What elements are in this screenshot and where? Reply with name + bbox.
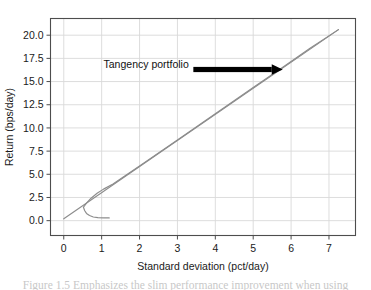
- annotation-arrow-shaft-tangency-portfolio: [193, 67, 271, 72]
- x-tick-label-2: 2: [137, 242, 143, 254]
- y-tick-label-5: 12.5: [23, 98, 44, 110]
- annotation-label-tangency-portfolio: Tangency portfolio: [104, 58, 189, 70]
- y-tick-label-3: 7.5: [29, 145, 44, 157]
- y-tick-label-0: 0.0: [29, 214, 44, 226]
- x-tick-label-3: 3: [175, 242, 181, 254]
- y-tick-label-2: 5.0: [29, 168, 44, 180]
- y-tick-label-8: 20.0: [23, 29, 44, 41]
- x-tick-label-5: 5: [250, 242, 256, 254]
- plot-background: [51, 19, 356, 236]
- x-axis-label: Standard deviation (pct/day): [137, 260, 268, 272]
- figure-container: 01234567 0.02.55.07.510.012.515.017.520.…: [0, 0, 371, 290]
- x-tick-label-1: 1: [99, 242, 105, 254]
- y-tick-label-6: 15.0: [23, 75, 44, 87]
- figure-caption-text: Figure 1.5 Emphasizes the slim performan…: [0, 279, 371, 290]
- figure-caption: Figure 1.5 Emphasizes the slim performan…: [0, 279, 371, 290]
- x-tick-label-6: 6: [288, 242, 294, 254]
- y-tick-label-7: 17.5: [23, 52, 44, 64]
- y-tick-label-4: 10.0: [23, 122, 44, 134]
- y-tick-label-1: 2.5: [29, 191, 44, 203]
- chart-canvas: 01234567 0.02.55.07.510.012.515.017.520.…: [0, 0, 371, 290]
- x-tick-label-4: 4: [212, 242, 218, 254]
- y-axis-label: Return (bps/day): [3, 88, 15, 166]
- x-tick-label-0: 0: [61, 242, 67, 254]
- x-tick-label-7: 7: [326, 242, 332, 254]
